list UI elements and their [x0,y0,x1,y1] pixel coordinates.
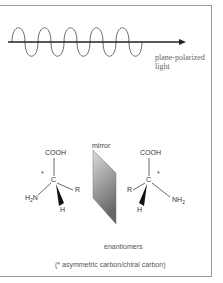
right-amine-label: NH2 [172,196,185,205]
light-label-line2: light [155,62,205,71]
left-carbon-label: C [51,176,56,183]
light-label: plane-polarized light [155,53,205,71]
left-r-label: R [75,186,80,193]
right-h-label: H [137,206,142,213]
left-wedge-bond-icon [56,184,64,206]
light-label-line1: plane-polarized [155,53,205,62]
right-r-label: R [127,186,132,193]
mirror-label: mirror [92,142,110,149]
left-chiral-mark: * [41,170,44,177]
mirror-icon [93,150,116,224]
chiral-carbon-note: (* asymmetric carbon/chiral carbon) [55,261,165,268]
left-h-label: H [60,206,65,213]
left-amine-n: N [33,194,38,201]
left-amine-label: H2N [25,194,38,203]
right-molecule-bonds [133,158,170,197]
left-cooh-label: COOH [45,149,66,156]
right-carbon-label: C [146,176,151,183]
right-chiral-mark: * [157,170,160,177]
diagram-graphics [0,0,223,283]
right-amine-sub: 2 [182,199,185,205]
right-amine-nh: NH [172,196,182,203]
enantiomers-caption: enantiomers [104,243,143,250]
right-cooh-label: COOH [140,149,161,156]
right-wedge-bond-icon [139,184,147,206]
arrow-icon [8,39,186,45]
